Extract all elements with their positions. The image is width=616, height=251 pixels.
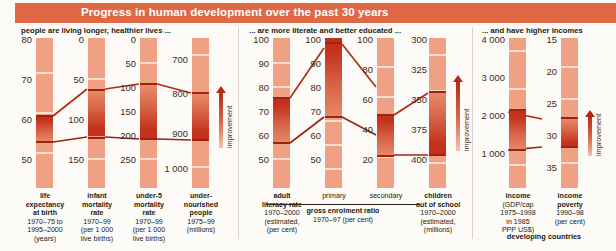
bar-infant-mortality xyxy=(88,38,105,188)
tick-primary-3: 70 xyxy=(297,106,321,117)
tick-under5-mortality-3: 150 xyxy=(108,106,136,117)
improvement-label-1: improvement xyxy=(225,106,234,148)
group-label-bold: gross enrolment ratio xyxy=(266,207,420,216)
bar-children-out-of-school xyxy=(429,38,446,188)
caption-line: live births) xyxy=(118,235,180,244)
caption-line: (estimated, xyxy=(406,218,470,227)
infographic-root: Progress in human development over the p… xyxy=(0,0,616,251)
tick-under5-mortality-0: 0 xyxy=(112,34,136,45)
caption-line: under- xyxy=(170,192,232,201)
tick-adult-literacy-2: 80 xyxy=(245,82,269,93)
caption-line: 1990–98 xyxy=(539,209,601,218)
group-rule-enrolment xyxy=(266,204,420,205)
caption-undernourished-people: under- nourished people 1975–99 (million… xyxy=(170,192,232,235)
tick-children-3: 375 xyxy=(397,124,427,135)
tick-infant-mortality-2: 100 xyxy=(56,114,84,125)
caption-line: (per cent) xyxy=(539,218,601,227)
bar-primary-enrolment xyxy=(325,38,342,188)
tick-infant-mortality-0: 0 xyxy=(60,34,84,45)
tick-primary-2: 80 xyxy=(297,82,321,93)
tick-secondary-0: 100 xyxy=(345,34,373,45)
tick-adult-literacy-3: 70 xyxy=(245,106,269,117)
panel-divider-2 xyxy=(472,27,473,239)
caption-line: children xyxy=(406,192,470,201)
tick-secondary-2: 60 xyxy=(349,94,373,105)
bar-adult-literacy xyxy=(273,38,290,188)
bar-income-gdp xyxy=(509,38,526,188)
tick-children-1: 325 xyxy=(397,64,427,75)
tick-under5-mortality-5: 250 xyxy=(108,154,136,165)
tick-income-poverty-3: 30 xyxy=(535,130,557,141)
caption-line: out of school xyxy=(406,201,470,210)
tick-undernourished-2: 900 xyxy=(152,128,188,139)
caption-line: (millions) xyxy=(170,226,232,235)
tick-life-expectancy-3: 50 xyxy=(8,154,32,165)
improvement-label-3: improvement xyxy=(594,114,603,156)
developing-countries-label: developing countries xyxy=(487,232,601,241)
group-label-sub: 1970–97 (per cent) xyxy=(313,216,373,224)
tick-under5-mortality-1: 50 xyxy=(110,58,136,69)
group-label-enrolment: gross enrolment ratio 1970–97 (per cent) xyxy=(266,207,420,224)
tick-income-gdp-1: 3 000 xyxy=(469,72,505,83)
tick-primary-1: 90 xyxy=(297,58,321,69)
caption-line: poverty xyxy=(539,201,601,210)
caption-line: nourished xyxy=(170,201,232,210)
caption-line: income xyxy=(539,192,601,201)
tick-primary-5: 50 xyxy=(297,154,321,165)
tick-income-poverty-2: 25 xyxy=(535,98,557,109)
tick-children-4: 400 xyxy=(397,154,427,165)
tick-children-0: 300 xyxy=(397,34,427,45)
caption-income-poverty: income poverty 1990–98 (per cent) xyxy=(539,192,601,226)
caption-line: 1970–2000 xyxy=(406,209,470,218)
tick-income-gdp-2: 2 000 xyxy=(469,110,505,121)
arrow-shaft xyxy=(588,116,592,156)
tick-income-gdp-3: 1 000 xyxy=(469,148,505,159)
tick-secondary-4: 20 xyxy=(349,154,373,165)
section-caption-2: ... are more literate and better educate… xyxy=(249,26,401,35)
tick-primary-0: 100 xyxy=(293,34,321,45)
tick-primary-4: 60 xyxy=(297,130,321,141)
tick-life-expectancy-0: 80 xyxy=(8,34,32,45)
arrow-shaft xyxy=(456,81,460,151)
tick-adult-literacy-4: 60 xyxy=(245,130,269,141)
bar-secondary-enrolment xyxy=(377,38,394,188)
tick-income-poverty-0: 15 xyxy=(535,34,557,45)
page-title: Progress in human development over the p… xyxy=(81,6,389,18)
tick-under5-mortality-4: 200 xyxy=(108,130,136,141)
tick-undernourished-1: 800 xyxy=(152,88,188,99)
caption-children-out-of-school: children out of school 1970–2000 (estima… xyxy=(406,192,470,235)
bar-income-poverty xyxy=(561,38,578,188)
tick-adult-literacy-5: 50 xyxy=(245,154,269,165)
tick-secondary-3: 40 xyxy=(349,124,373,135)
tick-income-poverty-1: 20 xyxy=(535,66,557,77)
caption-line: people xyxy=(170,209,232,218)
tick-infant-mortality-3: 150 xyxy=(56,154,84,165)
tick-income-gdp-0: 4 000 xyxy=(469,34,505,45)
tick-children-2: 350 xyxy=(397,94,427,105)
caption-line: 1975–99 xyxy=(170,218,232,227)
tick-life-expectancy-1: 70 xyxy=(8,74,32,85)
panel-divider-1 xyxy=(238,27,239,239)
section-caption-1: people are living longer, healthier live… xyxy=(21,26,171,35)
tick-under5-mortality-2: 100 xyxy=(108,82,136,93)
tick-infant-mortality-1: 50 xyxy=(58,74,84,85)
caption-line: (per cent) xyxy=(251,226,313,235)
tick-income-poverty-4: 35 xyxy=(535,162,557,173)
bar-life-expectancy xyxy=(36,38,53,188)
tick-secondary-1: 80 xyxy=(349,64,373,75)
caption-line: (millions) xyxy=(406,226,470,235)
bar-undernourished-people xyxy=(192,38,209,188)
tick-adult-literacy-0: 100 xyxy=(241,34,269,45)
tick-undernourished-3: 1 000 xyxy=(146,163,188,174)
title-bar: Progress in human development over the p… xyxy=(15,3,616,23)
tick-undernourished-0: 700 xyxy=(152,54,188,65)
tick-life-expectancy-2: 60 xyxy=(8,114,32,125)
tick-adult-literacy-1: 90 xyxy=(245,58,269,69)
arrow-shaft xyxy=(219,92,223,148)
